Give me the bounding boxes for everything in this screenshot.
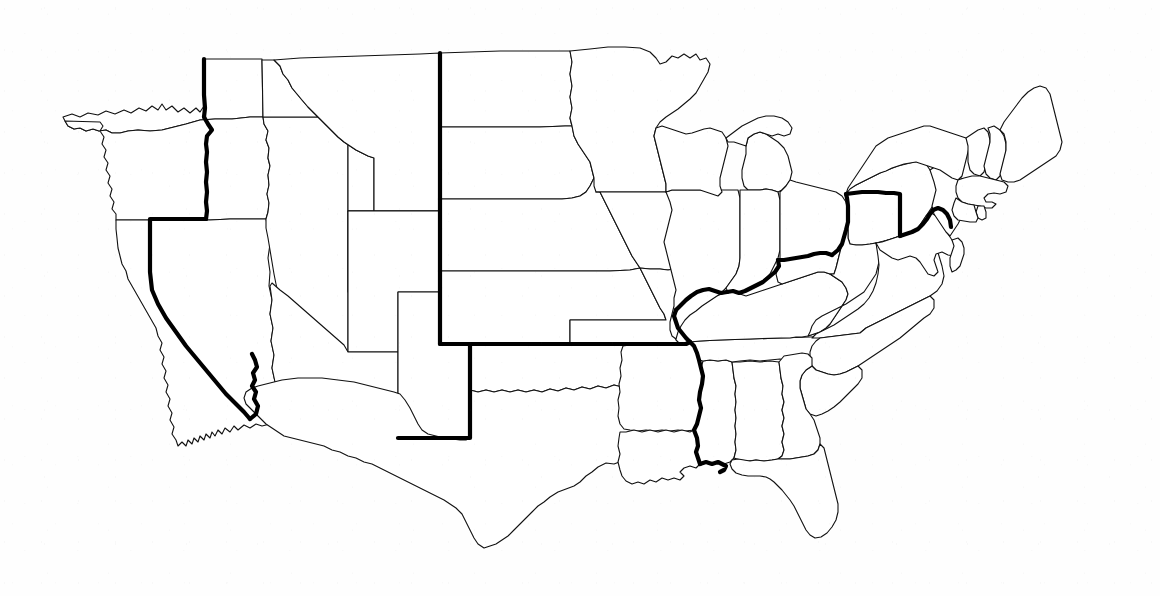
state-south-dakota (440, 126, 594, 199)
us-state-map (0, 0, 1160, 596)
map-page (0, 0, 1160, 596)
divide-segment-mo-ar (670, 342, 690, 344)
state-alabama (732, 361, 784, 461)
state-arkansas-shape (618, 342, 703, 431)
divide-segment-wa-id (204, 59, 205, 117)
state-north-dakota (440, 51, 572, 127)
